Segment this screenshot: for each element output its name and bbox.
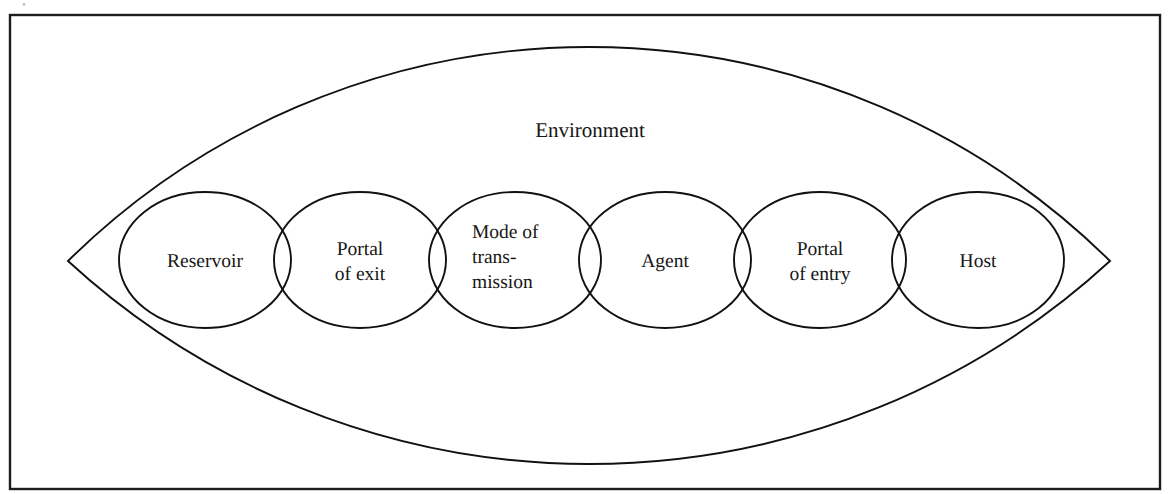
chain-label-line: trans-	[472, 247, 516, 268]
chain-of-infection-diagram: Environment ReservoirPortalof exitMode o…	[0, 0, 1170, 494]
figure-root: • Environment ReservoirPortalof exitMode…	[0, 0, 1170, 494]
environment-label: Environment	[535, 118, 645, 142]
chain-label-host: Host	[960, 251, 997, 272]
chain-label-mode-of-transmission: Mode oftrans-mission	[472, 222, 539, 293]
chain-label-line: Portal	[337, 239, 384, 260]
chain-label-line: of entry	[789, 264, 850, 285]
chain-ellipse-portal-of-exit	[274, 192, 446, 328]
chain-label-portal-of-entry: Portalof entry	[789, 239, 850, 285]
chain-label-reservoir: Reservoir	[167, 251, 243, 272]
chain-ellipse-portal-of-entry	[734, 192, 906, 328]
chain-label-line: of exit	[335, 264, 386, 285]
chain-ellipse-group	[119, 192, 1064, 328]
chain-label-agent: Agent	[641, 251, 689, 272]
chain-label-line: Portal	[797, 239, 844, 260]
chain-label-line: Agent	[641, 251, 689, 272]
chain-label-line: mission	[472, 272, 533, 293]
chain-label-line: Mode of	[472, 222, 539, 243]
chain-label-line: Reservoir	[167, 251, 243, 272]
chain-label-portal-of-exit: Portalof exit	[335, 239, 386, 285]
chain-label-line: Host	[960, 251, 997, 272]
